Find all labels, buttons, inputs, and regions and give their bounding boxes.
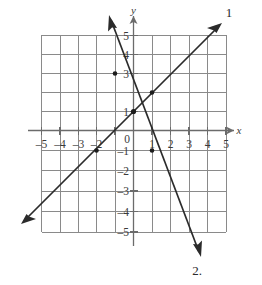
function-line-1-label: 1 bbox=[226, 5, 233, 20]
function-line-1-point bbox=[150, 90, 155, 95]
y-tick-label--2: –2 bbox=[117, 165, 130, 177]
intersection-point bbox=[131, 109, 136, 114]
function-line-2 bbox=[108, 15, 202, 257]
y-axis-label: y bbox=[130, 4, 136, 16]
function-line-2-arrow-end-icon bbox=[193, 241, 202, 258]
origin-label: 0 bbox=[124, 133, 130, 145]
x-axis-label: x bbox=[236, 124, 242, 136]
x-tick-label--3: –3 bbox=[72, 138, 85, 150]
x-tick-label--5: –5 bbox=[35, 138, 48, 150]
function-line-2-point bbox=[150, 148, 155, 153]
coordinate-plane-figure: –5 –4 –3 –2 1 2 3 4 5 5 4 3 1 –1 –2 –3 –… bbox=[0, 0, 262, 285]
y-tick-label--3: –3 bbox=[117, 185, 130, 197]
function-line-2-label: 2. bbox=[192, 263, 202, 278]
x-tick-label-5: 5 bbox=[223, 138, 229, 150]
x-tick-label--4: –4 bbox=[53, 138, 66, 150]
function-line-2-point bbox=[113, 71, 118, 76]
x-tick-label-3: 3 bbox=[186, 138, 192, 150]
coordinate-plane-svg: –5 –4 –3 –2 1 2 3 4 5 5 4 3 1 –1 –2 –3 –… bbox=[0, 0, 262, 285]
x-axis-tick-labels: –5 –4 –3 –2 1 2 3 4 5 bbox=[35, 138, 229, 150]
x-tick-label-2: 2 bbox=[168, 138, 174, 150]
x-tick-label-1: 1 bbox=[149, 138, 155, 150]
y-tick-label--4: –4 bbox=[117, 206, 130, 218]
x-tick-label-4: 4 bbox=[205, 138, 211, 150]
y-tick-label--1: –1 bbox=[117, 145, 130, 157]
y-tick-label--5: –5 bbox=[117, 226, 130, 238]
y-tick-label-5: 5 bbox=[123, 30, 129, 42]
y-tick-label-3: 3 bbox=[123, 68, 129, 80]
function-line-2-arrow-start-icon bbox=[108, 15, 117, 32]
function-line-1-point bbox=[94, 148, 99, 153]
